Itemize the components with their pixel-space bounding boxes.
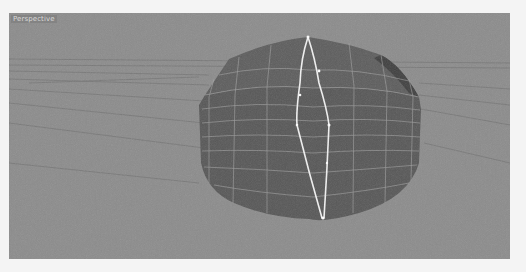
3d-viewport[interactable]: Perspective [9, 13, 510, 259]
viewport-canvas[interactable] [9, 13, 510, 259]
mesh-object[interactable] [199, 36, 421, 221]
viewport-label[interactable]: Perspective [11, 15, 57, 23]
